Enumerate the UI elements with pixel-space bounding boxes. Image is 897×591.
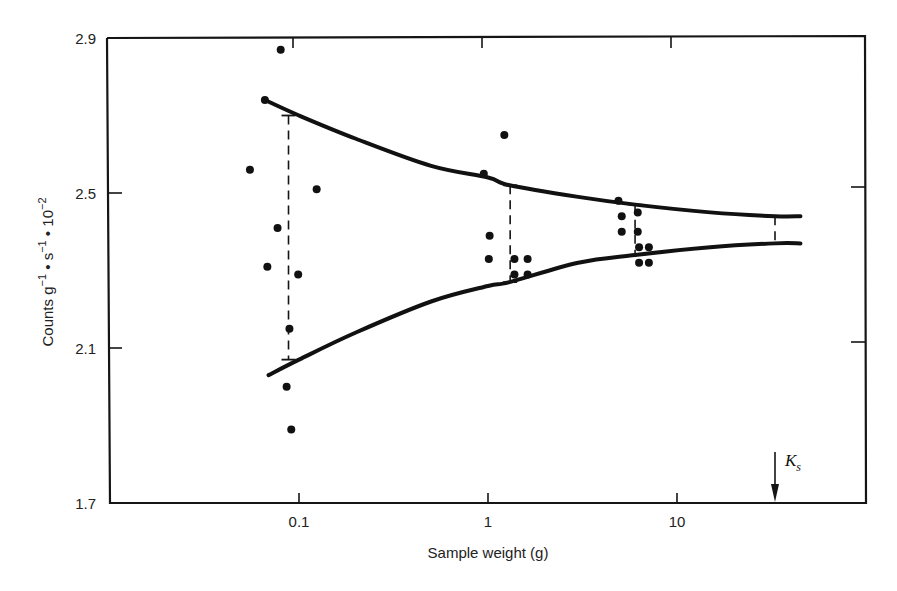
data-point — [510, 270, 518, 278]
range-bar — [768, 216, 782, 243]
data-point — [485, 255, 493, 263]
data-point — [614, 197, 622, 205]
data-point — [486, 232, 494, 240]
range-bars — [282, 116, 782, 360]
data-point — [635, 243, 643, 251]
data-point — [480, 170, 488, 178]
data-point — [618, 228, 626, 236]
data-point — [263, 263, 271, 271]
lower-envelope-curve — [269, 243, 801, 375]
y-tick-label: 2.5 — [75, 185, 96, 202]
data-point — [313, 185, 321, 193]
data-point — [287, 425, 295, 433]
y-tick-label: 1.7 — [75, 495, 96, 512]
ks-arrow-head-icon — [771, 484, 779, 502]
upper-envelope-curve — [265, 100, 801, 217]
data-points — [246, 46, 653, 434]
data-point — [285, 325, 293, 333]
data-point — [634, 208, 642, 216]
data-point — [274, 224, 282, 232]
data-point — [294, 270, 302, 278]
y-axis-tick-labels: 2.92.52.11.7 — [75, 30, 96, 512]
ks-label: Ks — [784, 451, 801, 474]
data-point — [618, 212, 626, 220]
axis-ticks — [108, 37, 865, 503]
x-axis-tick-labels: 0.1110 — [289, 513, 686, 530]
y-tick-label: 2.9 — [75, 30, 96, 47]
ks-annotation: Ks — [771, 451, 801, 502]
range-bar — [282, 116, 296, 360]
x-tick-label: 10 — [669, 513, 686, 530]
data-point — [283, 383, 291, 391]
range-bar — [503, 185, 517, 282]
y-tick-label: 2.1 — [75, 340, 96, 357]
envelope-curves — [265, 100, 801, 375]
plot-frame — [107, 36, 866, 503]
data-point — [635, 259, 643, 267]
x-tick-label: 1 — [484, 513, 492, 530]
svg-text:Counts g−1 • s−1 • 10−2: Counts g−1 • s−1 • 10−2 — [36, 197, 56, 346]
data-point — [634, 228, 642, 236]
data-point — [277, 46, 285, 54]
data-point — [524, 255, 532, 263]
data-point — [645, 243, 653, 251]
chart: 2.92.52.11.7 0.1110 Sample weight (g) Co… — [0, 0, 897, 591]
data-point — [645, 259, 653, 267]
x-axis-title: Sample weight (g) — [428, 544, 549, 561]
data-point — [261, 96, 269, 104]
data-point — [500, 131, 508, 139]
data-point — [246, 166, 254, 174]
data-point — [524, 270, 532, 278]
x-tick-label: 0.1 — [289, 513, 310, 530]
y-axis-title: Counts g−1 • s−1 • 10−2 — [36, 197, 56, 346]
data-point — [510, 255, 518, 263]
